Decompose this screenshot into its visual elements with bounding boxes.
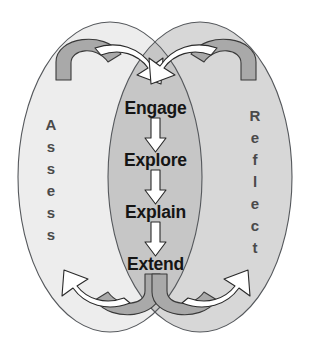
reflect-letter: R bbox=[250, 107, 261, 124]
phase-label-explain: Explain bbox=[125, 202, 186, 222]
phase-label-engage: Engage bbox=[124, 98, 186, 118]
phase-label-extend: Extend bbox=[127, 254, 184, 274]
assess-letter: s bbox=[47, 138, 55, 155]
assess-letter: A bbox=[46, 116, 57, 133]
reflect-letter: l bbox=[253, 173, 257, 190]
reflect-letter: c bbox=[251, 217, 259, 234]
assess-letter: s bbox=[47, 204, 55, 221]
assess-letter: s bbox=[47, 226, 55, 243]
diagram-canvas: Engage Explore Explain Extend A s s e s … bbox=[0, 0, 312, 349]
reflect-letter: t bbox=[253, 239, 258, 256]
reflect-letter: e bbox=[251, 195, 259, 212]
five-e-model-diagram: Engage Explore Explain Extend A s s e s … bbox=[0, 0, 312, 349]
assess-letter: s bbox=[47, 160, 55, 177]
assess-letter: e bbox=[47, 182, 55, 199]
reflect-letter: e bbox=[251, 129, 259, 146]
phase-label-explore: Explore bbox=[124, 150, 187, 170]
